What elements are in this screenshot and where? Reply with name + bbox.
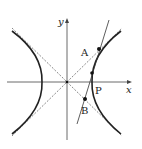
point-A <box>97 47 101 51</box>
label-B: B <box>81 105 88 116</box>
origin <box>66 81 69 84</box>
point-B <box>83 97 87 101</box>
label-x: x <box>126 84 132 95</box>
label-A: A <box>80 47 89 58</box>
hyperbola-diagram: A B P x y <box>0 0 142 149</box>
point-P <box>90 71 94 75</box>
right-branch <box>92 31 121 134</box>
left-branch <box>12 31 42 134</box>
label-y: y <box>57 16 64 27</box>
label-P: P <box>95 85 102 96</box>
y-axis-arrow-icon <box>65 18 69 23</box>
